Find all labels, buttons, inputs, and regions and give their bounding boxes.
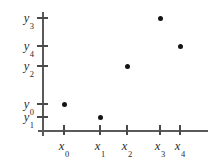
y-axis-tick bbox=[37, 45, 48, 47]
x-axis-tick-label: x1 bbox=[95, 140, 105, 153]
y-axis-tick bbox=[37, 103, 48, 105]
y-axis-tick-label: y0 bbox=[24, 98, 34, 111]
x-axis-tick-label: x2 bbox=[122, 140, 132, 153]
x-axis-tick bbox=[99, 125, 101, 135]
x-axis-tick-label: x4 bbox=[175, 140, 185, 153]
data-point bbox=[178, 44, 183, 49]
x-axis-tick-label: x3 bbox=[155, 140, 165, 153]
y-axis-tick-label: y4 bbox=[24, 40, 34, 53]
y-axis-tick-label: y1 bbox=[24, 111, 34, 124]
data-point bbox=[98, 115, 103, 120]
x-axis-tick-label: x0 bbox=[59, 140, 69, 153]
y-axis-tick bbox=[37, 17, 48, 19]
x-axis-tick bbox=[159, 125, 161, 135]
x-axis-tick bbox=[63, 125, 65, 135]
y-axis-tick bbox=[37, 65, 48, 67]
scatter-plot-figure: y3y4y2y0y1 x0x1x2x3x4 bbox=[0, 0, 214, 160]
y-axis-tick-label: y2 bbox=[24, 60, 34, 73]
data-point bbox=[125, 64, 130, 69]
x-axis-tick bbox=[179, 125, 181, 135]
x-axis-tick bbox=[126, 125, 128, 135]
data-point bbox=[158, 16, 163, 21]
y-axis-tick-label: y3 bbox=[24, 12, 34, 25]
data-point bbox=[62, 102, 67, 107]
y-axis-tick bbox=[37, 116, 48, 118]
